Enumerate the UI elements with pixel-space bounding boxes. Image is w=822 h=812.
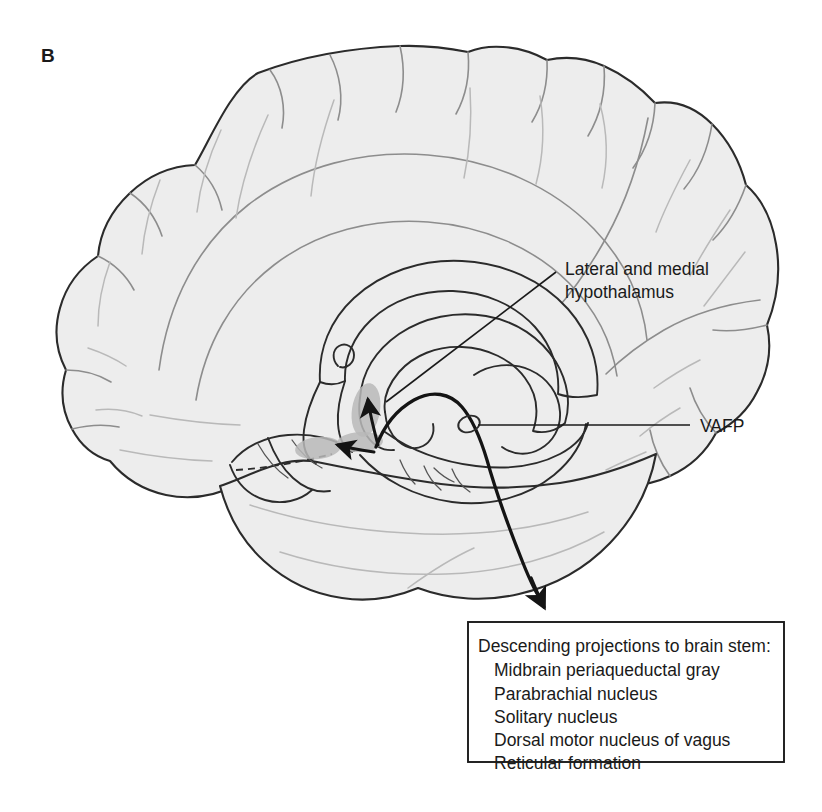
box-heading: Descending projections to brain stem:	[478, 636, 771, 656]
panel-label-b: B	[41, 45, 55, 66]
brain-diagram-figure: B	[0, 0, 822, 812]
hypothalamus-callout-line1: Lateral and medial	[565, 259, 709, 279]
box-item-2: Solitary nucleus	[494, 707, 618, 727]
vafp-callout-label: VAFP	[700, 416, 744, 436]
descending-projections-box-group: Descending projections to brain stem: Mi…	[468, 622, 784, 773]
hypothalamus-callout-line2: hypothalamus	[565, 282, 674, 302]
box-item-4: Reticular formation	[494, 753, 641, 773]
box-item-1: Parabrachial nucleus	[494, 684, 658, 704]
box-item-0: Midbrain periaqueductal gray	[494, 660, 720, 680]
box-item-3: Dorsal motor nucleus of vagus	[494, 730, 731, 750]
medial-brain-illustration: B	[0, 0, 822, 812]
